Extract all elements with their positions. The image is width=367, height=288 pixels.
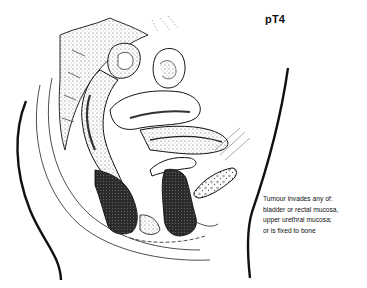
caption: Tumour invades any of: bladder or rectal… [263, 194, 355, 236]
caption-line: or is fixed to bone [263, 226, 355, 237]
pubic-bone [194, 168, 237, 198]
caption-line: Tumour invades any of: [263, 194, 355, 205]
body-outline-back [17, 101, 61, 280]
caption-line: upper urethral mucosa; [263, 215, 355, 226]
uterus [110, 91, 200, 130]
tumour-mass [162, 169, 196, 236]
stage-title: pT4 [265, 13, 285, 25]
caption-line: bladder or rectal mucosa, [263, 205, 355, 216]
pelvis-diagram [0, 0, 367, 288]
body-outline-front [248, 68, 288, 278]
